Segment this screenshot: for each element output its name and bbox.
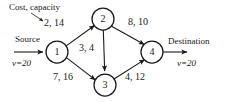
- edge-2-4: [112, 26, 145, 44]
- network-graph-canvas: 1 2 3 4: [0, 0, 232, 102]
- node-1-label: 1: [55, 46, 60, 57]
- edge-label-2-3: 3, 4: [79, 43, 94, 53]
- source-flow-label: v=20: [12, 59, 31, 68]
- network-flow-diagram: 1 2 3 4 Cost, capacity 2, 14 3, 4 8, 10 …: [0, 0, 232, 102]
- edge-2-3: [103, 30, 104, 71]
- destination-label: Destination: [168, 37, 210, 46]
- source-label: Source: [15, 35, 40, 44]
- edge-label-1-3: 7, 16: [53, 72, 73, 82]
- node-2-label: 2: [101, 13, 106, 24]
- edge-label-1-2: 2, 14: [44, 18, 64, 28]
- node-3-label: 3: [103, 79, 108, 90]
- edge-label-3-4: 4, 12: [125, 72, 145, 82]
- node-4-label: 4: [150, 46, 155, 57]
- destination-flow-label: v=20: [177, 59, 196, 68]
- callout-pointer-cost-capacity: [31, 13, 43, 21]
- legend-cost-capacity: Cost, capacity: [9, 3, 60, 12]
- edge-label-2-4: 8, 10: [128, 17, 148, 27]
